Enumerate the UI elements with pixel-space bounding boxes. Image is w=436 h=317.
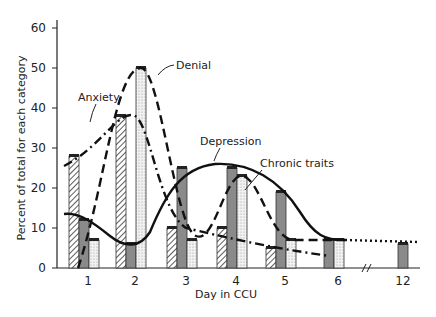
y-tick-label: 50 xyxy=(31,61,46,75)
x-tick-label: 5 xyxy=(281,274,289,288)
y-axis: 0102030405060 xyxy=(31,20,57,275)
y-tick-label: 40 xyxy=(31,101,46,115)
label-anxiety: Anxiety xyxy=(78,91,120,104)
bar-anxiety xyxy=(167,228,177,268)
y-tick-label: 20 xyxy=(31,181,46,195)
bar-depression xyxy=(126,244,136,268)
y-tick-label: 10 xyxy=(31,221,46,235)
x-tick-label: 1 xyxy=(84,274,92,288)
y-tick-label: 0 xyxy=(38,261,46,275)
y-tick-label: 30 xyxy=(31,141,46,155)
x-tick-label: 3 xyxy=(182,274,190,288)
bar-denial xyxy=(286,240,296,268)
chart: 0102030405060 12345612 Percent of total … xyxy=(0,0,436,317)
x-axis-label: Day in CCU xyxy=(195,288,257,301)
y-axis-label: Percent of total for each category xyxy=(15,55,28,240)
bar-depression xyxy=(227,168,237,268)
bar-denial xyxy=(334,240,344,268)
curve-chronic-traits xyxy=(345,240,418,242)
bar-depression xyxy=(398,244,408,268)
bar-anxiety xyxy=(266,248,276,268)
bar-denial xyxy=(89,240,99,268)
bar-anxiety xyxy=(116,116,126,268)
bar-anxiety xyxy=(217,228,227,268)
label-denial: Denial xyxy=(176,59,211,72)
label-depression: Depression xyxy=(200,135,262,148)
bar-denial xyxy=(187,240,197,268)
bar-anxiety xyxy=(69,156,79,268)
x-tick-label: 6 xyxy=(334,274,342,288)
y-tick-label: 60 xyxy=(31,21,46,35)
curve-anxiety xyxy=(64,115,330,256)
bar-depression xyxy=(324,240,334,268)
label-chronic-traits: Chronic traits xyxy=(260,157,334,170)
x-tick-label: 2 xyxy=(131,274,139,288)
x-tick-label: 4 xyxy=(232,274,240,288)
x-tick-label: 12 xyxy=(395,274,410,288)
